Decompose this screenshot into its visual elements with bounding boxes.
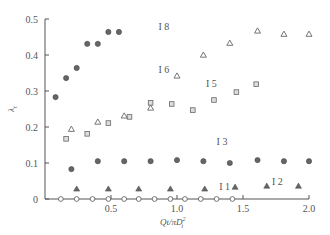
- x-tick-label: 2.0: [303, 203, 316, 214]
- data-point: [116, 29, 121, 34]
- y-tick-label: 0.3: [26, 86, 39, 97]
- data-point: [227, 40, 233, 45]
- data-point: [168, 197, 173, 202]
- data-point: [254, 82, 259, 87]
- data-point: [74, 65, 79, 70]
- data-point: [191, 108, 196, 113]
- series-label: I 1: [219, 181, 230, 192]
- data-point: [201, 159, 206, 164]
- data-point: [127, 115, 132, 120]
- data-point: [69, 167, 74, 172]
- data-point: [106, 121, 111, 126]
- data-point: [74, 186, 80, 191]
- y-tick-label: 0: [33, 194, 38, 205]
- axes: [45, 19, 309, 199]
- y-tick-label: 0.5: [26, 14, 39, 25]
- y-tick-label: 0.1: [26, 158, 39, 169]
- data-point: [281, 31, 287, 36]
- x-tick-label: 0.5: [105, 203, 118, 214]
- series-label: I 5: [206, 78, 217, 89]
- data-point: [174, 73, 180, 78]
- data-point: [306, 159, 311, 164]
- data-point: [152, 197, 157, 202]
- series-i5: [64, 82, 259, 141]
- data-point: [212, 98, 217, 103]
- data-point: [74, 197, 79, 202]
- data-point: [148, 105, 154, 110]
- data-point: [232, 184, 238, 189]
- data-point: [202, 186, 208, 191]
- series-i3: [69, 158, 312, 172]
- data-point: [90, 197, 95, 202]
- series-label: I 3: [217, 136, 228, 147]
- data-point: [95, 119, 101, 124]
- data-point: [198, 197, 203, 202]
- data-point: [264, 183, 270, 188]
- data-point: [200, 52, 206, 57]
- x-tick-label: 1.0: [171, 203, 184, 214]
- x-axis-title: Qt/πD2t: [160, 216, 186, 229]
- data-point: [106, 197, 111, 202]
- y-axis-title: λt: [6, 106, 18, 113]
- data-point: [148, 159, 153, 164]
- data-point: [85, 41, 90, 46]
- data-point: [68, 126, 74, 131]
- data-point: [122, 159, 127, 164]
- data-point: [122, 197, 127, 202]
- series-label: I 8: [159, 21, 170, 32]
- series-i8: [53, 29, 122, 99]
- data-point: [64, 137, 69, 142]
- data-point: [136, 197, 141, 202]
- data-point: [85, 132, 90, 137]
- series-labels: I 8I 6I 5I 3I 2I 1: [159, 21, 283, 192]
- data-point: [58, 197, 63, 202]
- data-point: [169, 102, 174, 107]
- data-point: [255, 158, 260, 163]
- data-point: [64, 75, 69, 80]
- data-point: [95, 41, 100, 46]
- series-label: I 6: [159, 64, 170, 75]
- data-point: [53, 95, 58, 100]
- data-point: [295, 183, 301, 188]
- data-point: [230, 197, 235, 202]
- series-i2: [74, 183, 302, 191]
- data-point: [167, 186, 173, 191]
- x-tick-label: 1.5: [237, 203, 250, 214]
- data-point: [136, 186, 142, 191]
- data-point: [214, 197, 219, 202]
- y-tick-label: 0.2: [26, 122, 39, 133]
- data-point: [106, 29, 111, 34]
- y-tick-label: 0.4: [26, 50, 39, 61]
- data-point: [95, 159, 100, 164]
- data-point: [183, 197, 188, 202]
- data-point: [105, 186, 111, 191]
- data-point: [255, 28, 261, 33]
- data-point: [234, 90, 239, 95]
- series-label: I 2: [272, 176, 283, 187]
- data-point: [306, 31, 312, 36]
- series-i6: [68, 28, 312, 131]
- data-point: [281, 159, 286, 164]
- data-point: [227, 160, 232, 165]
- data-point: [121, 113, 127, 118]
- data-point: [174, 158, 179, 163]
- scatter-chart: 00.10.20.30.40.5 0.51.01.52.0 I 8I 6I 5I…: [0, 0, 330, 235]
